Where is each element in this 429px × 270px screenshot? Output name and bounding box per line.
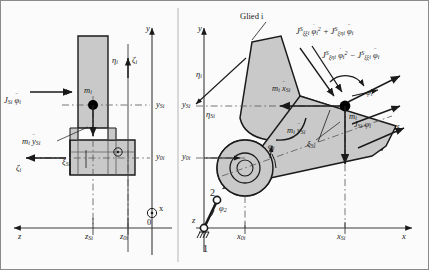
phi2-label: φ2 xyxy=(219,204,227,213)
ground-z-label: z xyxy=(192,216,195,225)
right-y0i-label: y0i xyxy=(182,152,190,161)
right-ysi-label: ySi xyxy=(182,100,190,109)
left-xisi-label: ξSi xyxy=(62,158,70,167)
right-x0i-label: x0i xyxy=(237,232,245,241)
left-ysi-label: ySi xyxy=(156,100,164,109)
right-xii-label: ξi xyxy=(396,124,401,133)
left-z-axis-label: z xyxy=(18,232,21,241)
right-force-miysi-label: mi y¨Si xyxy=(287,126,305,135)
right-hub-outer-2 xyxy=(217,140,273,196)
left-body-flange xyxy=(70,140,135,175)
right-xisi-label: ξSi xyxy=(307,140,315,149)
glied-label: Glied i xyxy=(240,12,263,21)
link-2-label: 2 xyxy=(210,188,215,198)
left-force-miysi-label: mi y¨Si xyxy=(22,137,40,146)
left-zsi-label: zSi xyxy=(85,232,93,241)
ground-joint xyxy=(200,224,207,231)
link-1-label: 1 xyxy=(203,244,208,254)
left-body-fillet-left xyxy=(70,128,78,140)
left-x-axis-label: x xyxy=(159,204,163,213)
right-etasi-label: ηSi xyxy=(206,110,215,119)
right-y-axis-label: y xyxy=(198,24,202,33)
left-xi-top-label: ζi xyxy=(132,56,137,65)
formula-lower: JSξηi φ˙i2 − JSξξi φ¨i xyxy=(322,50,379,60)
left-x-out-dot xyxy=(151,212,154,215)
right-phii-angle-label: φi xyxy=(268,142,274,151)
diagram-svg xyxy=(0,0,429,270)
left-joint-dot xyxy=(117,151,119,153)
left-mass-label: mi xyxy=(84,86,92,95)
left-moment-label: JSi φ¨i xyxy=(4,96,21,105)
formula-upper: JSξξi φ˙i2 + JSξηi φ¨i xyxy=(296,26,353,36)
left-zeta-label: ζi xyxy=(16,164,21,173)
right-phii-label: φi xyxy=(366,88,372,97)
right-x-axis-label: x xyxy=(402,232,406,241)
right-xsi-label: xSi xyxy=(337,232,345,241)
right-moment-jsi-label: JSi φ¨i xyxy=(354,120,371,129)
right-force-mixsi-label: mi x¨Si xyxy=(272,84,290,93)
left-origin-label: 0 xyxy=(147,218,151,227)
figure-canvas: y z x 0 ySi y0i zSi z0i ηi ζi ζi ξSi mi … xyxy=(0,0,429,270)
left-z0i-label: z0i xyxy=(120,232,128,241)
right-eta-label: ηi xyxy=(196,70,202,79)
left-y0i-label: y0i xyxy=(156,152,164,161)
left-y-axis-label: y xyxy=(146,24,150,33)
left-body-fillet-right xyxy=(108,128,116,140)
left-eta-label: ηi xyxy=(112,56,118,65)
